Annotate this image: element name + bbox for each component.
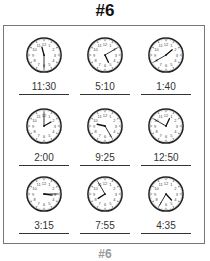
svg-text:7: 7	[37, 62, 39, 67]
time-label: 2:00	[19, 152, 69, 166]
time-label: 11:30	[19, 81, 69, 95]
time-label: 1:40	[141, 81, 191, 95]
svg-text:2: 2	[174, 186, 176, 191]
svg-text:2: 2	[174, 118, 176, 123]
time-label: 4:35	[141, 220, 191, 234]
svg-text:12: 12	[103, 42, 107, 47]
clock-face-icon: 123456789101112	[86, 36, 124, 74]
svg-text:2: 2	[52, 186, 54, 191]
clock-face-icon: 123456789101112	[147, 36, 185, 74]
svg-text:7: 7	[98, 133, 100, 138]
time-label: 3:15	[19, 220, 69, 234]
time-label: 5:10	[80, 81, 130, 95]
svg-text:7: 7	[98, 201, 100, 206]
svg-text:2: 2	[52, 118, 54, 123]
svg-text:12: 12	[42, 42, 46, 47]
svg-text:7: 7	[98, 62, 100, 67]
clock-face-icon: 123456789101112	[25, 107, 63, 145]
svg-text:12: 12	[164, 181, 168, 186]
svg-text:7: 7	[159, 62, 161, 67]
clock-face-icon: 123456789101112	[147, 107, 185, 145]
svg-text:2: 2	[113, 118, 115, 123]
svg-text:12: 12	[103, 181, 107, 186]
time-label: 7:55	[80, 220, 130, 234]
svg-text:12: 12	[103, 113, 107, 118]
svg-text:12: 12	[164, 113, 168, 118]
svg-text:2: 2	[113, 186, 115, 191]
clock-face-icon: 123456789101112	[147, 175, 185, 213]
svg-text:2: 2	[174, 47, 176, 52]
svg-text:2: 2	[52, 47, 54, 52]
time-label: 12:50	[141, 152, 191, 166]
clock-face-icon: 123456789101112	[86, 175, 124, 213]
svg-text:7: 7	[37, 133, 39, 138]
worksheet-footer: #6	[0, 247, 210, 261]
svg-text:7: 7	[37, 201, 39, 206]
clock-face-icon: 123456789101112	[25, 175, 63, 213]
svg-text:12: 12	[42, 181, 46, 186]
worksheet-title: #6	[0, 0, 210, 22]
clock-face-icon: 123456789101112	[86, 107, 124, 145]
svg-text:7: 7	[159, 133, 161, 138]
time-label: 9:25	[80, 152, 130, 166]
svg-text:12: 12	[164, 42, 168, 47]
clock-face-icon: 123456789101112	[25, 36, 63, 74]
